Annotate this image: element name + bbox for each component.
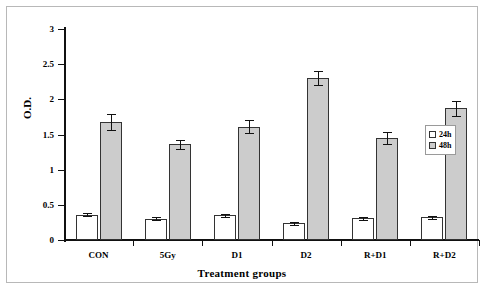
x-tick xyxy=(272,240,273,246)
error-bar-cap xyxy=(107,114,116,115)
y-tick-label: 0.5 xyxy=(12,201,54,210)
error-bar-cap xyxy=(152,220,161,221)
y-tick-label: 2.5 xyxy=(12,60,54,69)
x-tick-label: 5Gy xyxy=(128,250,208,260)
error-bar-cap xyxy=(428,216,437,217)
x-tick xyxy=(479,240,480,246)
error-bar-cap xyxy=(245,133,254,134)
bar-24h-CON xyxy=(76,215,98,240)
bar-24h-R+D2 xyxy=(421,217,443,240)
error-bar-cap xyxy=(383,132,392,133)
x-tick-label: R+D2 xyxy=(404,250,484,260)
bar-24h-D1 xyxy=(214,215,236,240)
x-tick-label: D1 xyxy=(197,250,277,260)
y-tick-label: 1 xyxy=(12,166,54,175)
legend-swatch-24h xyxy=(429,131,436,138)
bar-48h-D2 xyxy=(307,78,329,240)
error-bar-cap xyxy=(221,214,230,215)
y-tick xyxy=(58,240,64,241)
y-tick-label: 0 xyxy=(12,236,54,245)
error-bar-cap xyxy=(107,130,116,131)
error-bar-cap xyxy=(176,140,185,141)
bar-48h-5Gy xyxy=(169,144,191,240)
error-bar-cap xyxy=(314,85,323,86)
error-bar-stem xyxy=(456,101,457,116)
legend-item-48h: 48h xyxy=(429,140,451,151)
error-bar-cap xyxy=(221,217,230,218)
x-tick xyxy=(410,240,411,246)
error-bar-cap xyxy=(452,116,461,117)
error-bar-stem xyxy=(180,140,181,148)
error-bar-cap xyxy=(83,216,92,217)
error-bar-cap xyxy=(359,220,368,221)
plot-area xyxy=(64,29,479,240)
error-bar-cap xyxy=(176,149,185,150)
error-bar-cap xyxy=(83,213,92,214)
error-bar-cap xyxy=(314,71,323,72)
bar-48h-CON xyxy=(100,122,122,240)
chart-legend: 24h 48h xyxy=(425,125,456,155)
bar-24h-5Gy xyxy=(145,219,167,240)
x-tick-label: R+D1 xyxy=(335,250,415,260)
legend-label-24h: 24h xyxy=(439,131,451,139)
error-bar-cap xyxy=(428,219,437,220)
legend-label-48h: 48h xyxy=(439,142,451,150)
error-bar-cap xyxy=(152,217,161,218)
y-tick-label: 2 xyxy=(12,95,54,104)
bar-24h-R+D1 xyxy=(352,218,374,240)
error-bar-cap xyxy=(245,120,254,121)
chart-frame: O.D. 00.511.522.53 CON5GyD1D2R+D1R+D2 24… xyxy=(6,6,478,283)
error-bar-cap xyxy=(359,217,368,218)
y-tick-label: 3 xyxy=(12,25,54,34)
error-bar-stem xyxy=(111,114,112,129)
legend-item-24h: 24h xyxy=(429,129,451,140)
x-tick-label: CON xyxy=(59,250,139,260)
x-tick xyxy=(341,240,342,246)
bar-24h-D2 xyxy=(283,223,305,240)
legend-swatch-48h xyxy=(429,142,436,149)
bar-48h-R+D1 xyxy=(376,138,398,240)
x-tick xyxy=(202,240,203,246)
x-tick-label: D2 xyxy=(266,250,346,260)
error-bar-cap xyxy=(452,101,461,102)
y-tick-label: 1.5 xyxy=(12,131,54,140)
x-axis-title: Treatment groups xyxy=(7,267,477,279)
error-bar-stem xyxy=(318,71,319,85)
x-tick xyxy=(133,240,134,246)
error-bar-stem xyxy=(249,120,250,133)
error-bar-stem xyxy=(387,132,388,145)
error-bar-cap xyxy=(290,222,299,223)
bar-48h-D1 xyxy=(238,127,260,240)
error-bar-cap xyxy=(290,225,299,226)
error-bar-cap xyxy=(383,144,392,145)
